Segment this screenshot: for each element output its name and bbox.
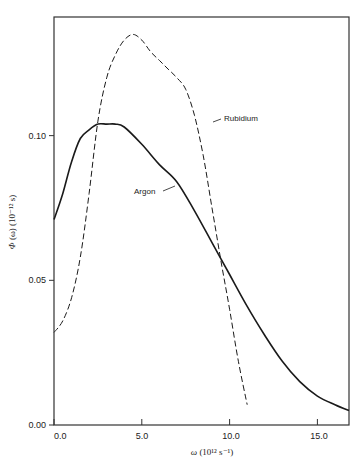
spectral-density-chart: 0.0 5.0 10.0 15.0 0.00 0.05 0.10 ω (10¹²…: [0, 0, 361, 467]
x-tick-label-5: 5.0: [136, 431, 149, 441]
argon-label: Argon: [134, 187, 155, 196]
argon-leader-line: [163, 186, 175, 191]
x-tick-label-15: 15.0: [310, 431, 328, 441]
x-tick-label-0: 0.0: [54, 431, 67, 441]
x-tick-label-10: 10.0: [222, 431, 240, 441]
plot-frame: [54, 17, 349, 425]
x-axis-title: ω (10¹² s⁻¹): [191, 447, 233, 457]
y-tick-label-005: 0.05: [28, 275, 46, 285]
y-axis-ticks: [49, 136, 54, 425]
y-axis-title: Φ (ω) (10⁻¹² s): [7, 195, 17, 249]
x-axis-ticks: [54, 419, 317, 425]
y-tick-label-010: 0.10: [28, 131, 46, 141]
rubidium-label: Rubidium: [224, 114, 258, 123]
y-tick-label-0: 0.00: [28, 420, 46, 430]
rubidium-curve: [54, 34, 247, 404]
argon-curve: [54, 124, 349, 411]
rubidium-leader-line: [213, 119, 221, 122]
